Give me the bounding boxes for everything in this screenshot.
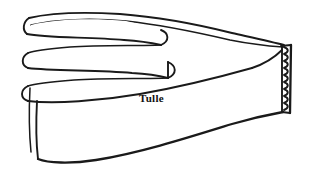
gathered-bottom-cap — [282, 112, 290, 113]
tulle-diagram — [0, 0, 309, 173]
tulle-label: Tulle — [139, 93, 164, 104]
gathered-top-cap — [281, 45, 291, 46]
fold-1-right-turn — [161, 30, 167, 45]
gathered-outer-edge — [290, 45, 291, 113]
main-band-left-inner-edge — [29, 88, 31, 152]
illustration-root: Tulle — [0, 0, 309, 173]
fold-1-left-turn — [24, 18, 29, 34]
